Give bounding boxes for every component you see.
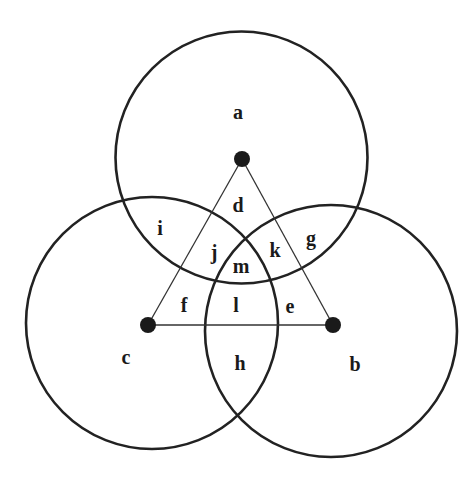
circles-group [26, 32, 457, 458]
label-a: a [233, 101, 243, 123]
label-d: d [232, 194, 243, 216]
labels-group: a d i g j k m f l e c h b [122, 101, 361, 375]
point-b-dot-icon [325, 317, 341, 333]
venn-diagram: a d i g j k m f l e c h b [0, 0, 475, 477]
edge-c-a [148, 159, 242, 325]
label-g: g [306, 227, 316, 250]
label-h: h [234, 352, 245, 374]
label-f: f [181, 294, 188, 316]
label-l: l [233, 294, 239, 316]
label-i: i [157, 217, 163, 239]
label-k: k [269, 239, 281, 261]
label-b: b [349, 353, 360, 375]
point-a-dot-icon [234, 151, 250, 167]
point-c-dot-icon [140, 317, 156, 333]
label-j: j [210, 241, 218, 264]
label-c: c [122, 346, 131, 368]
label-m: m [233, 255, 250, 277]
label-e: e [286, 295, 295, 317]
